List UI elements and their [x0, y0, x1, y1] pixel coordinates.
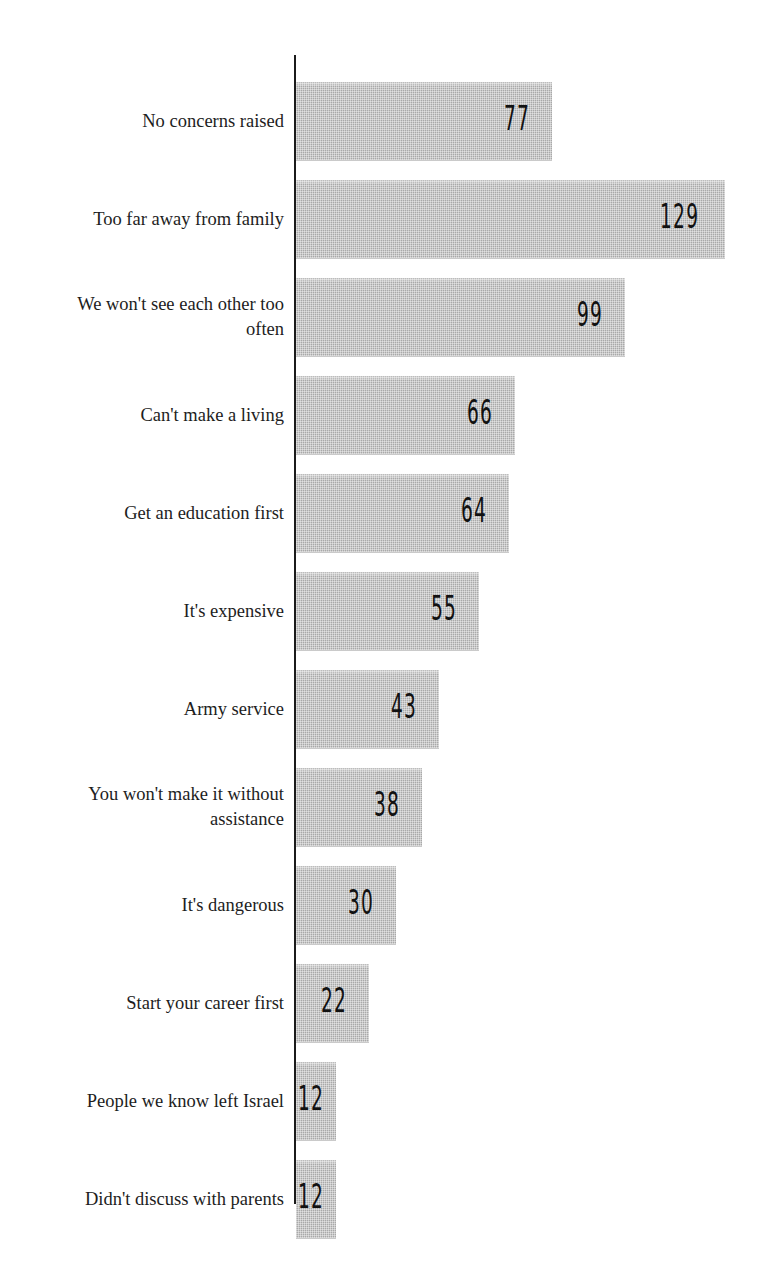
category-label: It's expensive	[34, 562, 284, 660]
bar-value-label: 129	[660, 200, 699, 234]
bar[interactable]: 22	[296, 964, 369, 1042]
bar-value-label: 99	[577, 298, 603, 332]
bar-row: It's dangerous30	[0, 856, 766, 954]
bar-value-label: 77	[504, 102, 530, 136]
bar[interactable]: 30	[296, 866, 396, 944]
category-label: Too far away from family	[34, 170, 284, 268]
bar-value-label: 38	[374, 788, 400, 822]
bar[interactable]: 77	[296, 82, 552, 160]
category-label: Get an education first	[34, 464, 284, 562]
bar[interactable]: 12	[296, 1062, 336, 1140]
horizontal-bar-chart: No concerns raised77Too far away from fa…	[0, 0, 766, 1280]
category-label: Army service	[34, 660, 284, 758]
bar-row: Didn't discuss with parents12	[0, 1150, 766, 1248]
bar[interactable]: 38	[296, 768, 422, 846]
category-label: No concerns raised	[34, 72, 284, 170]
category-label: You won't make it without assistance	[34, 758, 284, 856]
category-label: Start your career first	[34, 954, 284, 1052]
bar-value-label: 30	[348, 886, 374, 920]
bar[interactable]: 66	[296, 376, 515, 454]
bar[interactable]: 12	[296, 1160, 336, 1238]
bar-row: Can't make a living66	[0, 366, 766, 464]
bar-row: Too far away from family129	[0, 170, 766, 268]
bar-value-label: 43	[391, 690, 417, 724]
bar[interactable]: 99	[296, 278, 625, 356]
category-label: Didn't discuss with parents	[34, 1150, 284, 1248]
category-label: Can't make a living	[34, 366, 284, 464]
bar-row: Get an education first64	[0, 464, 766, 562]
bar-value-label: 66	[467, 396, 493, 430]
bar-row: Army service43	[0, 660, 766, 758]
bar[interactable]: 129	[296, 180, 725, 258]
category-label: People we know left Israel	[34, 1052, 284, 1150]
bar-value-label: 12	[298, 1180, 324, 1214]
bar-row: Start your career first22	[0, 954, 766, 1052]
bar-row: We won't see each other too often99	[0, 268, 766, 366]
bar-rows-container: No concerns raised77Too far away from fa…	[0, 72, 766, 1248]
category-label: We won't see each other too often	[34, 268, 284, 366]
bar-value-label: 12	[298, 1082, 324, 1116]
bar-value-label: 22	[321, 984, 347, 1018]
bar-row: You won't make it without assistance38	[0, 758, 766, 856]
category-label: It's dangerous	[34, 856, 284, 954]
bar[interactable]: 64	[296, 474, 509, 552]
bar[interactable]: 55	[296, 572, 479, 650]
bar-value-label: 55	[431, 592, 457, 626]
bar-row: No concerns raised77	[0, 72, 766, 170]
bar-row: It's expensive55	[0, 562, 766, 660]
bar-value-label: 64	[461, 494, 487, 528]
bar[interactable]: 43	[296, 670, 439, 748]
bar-row: People we know left Israel12	[0, 1052, 766, 1150]
